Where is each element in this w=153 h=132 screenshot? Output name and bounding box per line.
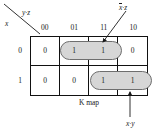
column-header-00: 00 <box>30 24 60 32</box>
kmap-cell-r1c0: 0 <box>31 66 60 95</box>
kmap-figure: y·z x 00 01 11 10 0 1 0 1 1 0 0 0 1 <box>0 0 153 132</box>
cell-value: 0 <box>72 77 76 85</box>
cell-value: 1 <box>131 77 135 85</box>
kmap-cell-r0c3: 0 <box>118 37 147 66</box>
row-header-0: 0 <box>14 47 26 55</box>
kmap-cell-r0c0: 0 <box>31 37 60 66</box>
row-variable-label: x <box>5 20 8 28</box>
group-label-xbar-z-suffix: ·z <box>122 3 127 12</box>
cell-value: 1 <box>101 47 105 55</box>
row-header-1: 1 <box>14 77 26 85</box>
group-oval-x-y <box>90 71 152 90</box>
cell-value: 1 <box>101 77 105 85</box>
kmap-cell-r1c1: 0 <box>60 66 89 95</box>
column-variable-label: y·z <box>22 9 30 17</box>
cell-value: 0 <box>43 47 47 55</box>
cell-value: 0 <box>43 77 47 85</box>
cell-value: 0 <box>131 47 135 55</box>
column-header-11: 11 <box>89 24 119 32</box>
group-label-x-y: x·y <box>126 120 135 128</box>
group-oval-xbar-z <box>60 41 122 60</box>
column-header-10: 10 <box>119 24 149 32</box>
figure-caption: K map <box>30 99 148 107</box>
group-label-xbar-z: x·z <box>119 3 127 12</box>
cell-value: 1 <box>72 47 76 55</box>
column-header-01: 01 <box>60 24 90 32</box>
